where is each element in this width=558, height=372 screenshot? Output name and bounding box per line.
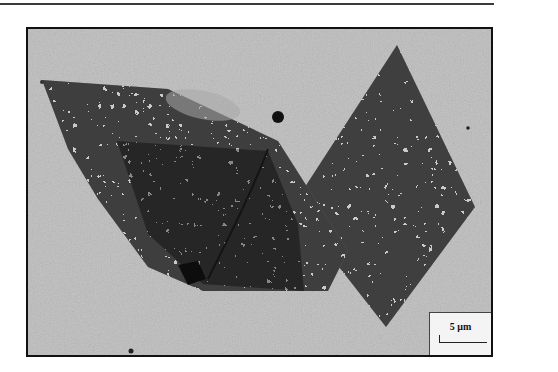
scale-bar-box: 5 μm: [429, 312, 491, 355]
particle: [272, 111, 284, 123]
top-rule: [0, 3, 494, 5]
micrograph-image: [28, 29, 493, 357]
micrograph-frame: 5 μm: [26, 27, 493, 357]
scale-bar-label: 5 μm: [430, 321, 491, 332]
scale-bar-line: [439, 342, 487, 343]
